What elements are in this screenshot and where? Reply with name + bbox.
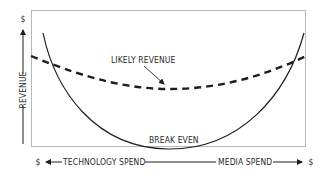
x-axis-right-dollar-symbol: $: [309, 157, 314, 167]
x-axis-media-spend-label: MEDIA SPEND: [218, 157, 272, 167]
break-even-curve: [43, 33, 304, 149]
x-axis-technology-spend-label: TECHNOLOGY SPEND: [62, 157, 145, 167]
revenue-vs-spend-diagram: $ REVENUE $ TECHNOLOGY SPEND MEDIA SPEND…: [0, 0, 332, 185]
likely-revenue-pointer-arrow: [144, 66, 164, 84]
y-axis-dollar-symbol: $: [21, 14, 26, 24]
y-axis-label: REVENUE: [18, 71, 28, 108]
break-even-annotation: BREAK EVEN: [149, 135, 199, 145]
likely-revenue-annotation: LIKELY REVENUE: [111, 55, 175, 65]
plot-frame: [32, 11, 306, 147]
x-axis-left-dollar-symbol: $: [36, 157, 41, 167]
